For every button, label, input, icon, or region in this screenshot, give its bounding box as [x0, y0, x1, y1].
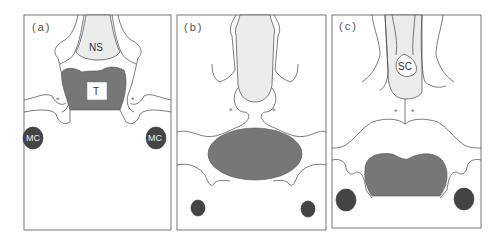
marker-a-left: * [56, 95, 60, 105]
marker-c-left: * [394, 107, 398, 117]
ns-label: NS [89, 42, 103, 53]
panel-a-label: (a) [32, 21, 51, 33]
panel-b [177, 15, 326, 230]
panel-c [332, 15, 481, 228]
mc-right-label: MC [148, 133, 162, 143]
sc-label: SC [398, 61, 412, 72]
mc-left-label: MC [26, 133, 40, 143]
panel-c-label: (c) [339, 20, 358, 32]
marker-b-right: * [272, 106, 276, 116]
marker-c-right: * [411, 107, 415, 117]
marker-a-right: * [131, 95, 135, 105]
panel-b-label: (b) [184, 21, 203, 33]
figure: (a) NS T MC MC * * (b) * * [0, 0, 498, 241]
marker-b-left: * [229, 106, 233, 116]
t-label: T [93, 86, 99, 97]
